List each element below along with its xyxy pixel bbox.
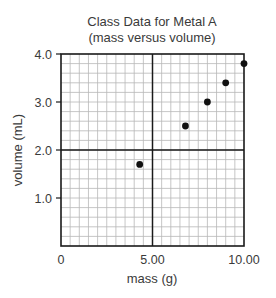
y-tick-label: 2.0 <box>35 144 52 158</box>
y-tick-label: 1.0 <box>35 192 52 206</box>
data-point <box>136 161 143 168</box>
x-axis-label: mass (g) <box>127 271 178 286</box>
y-axis-label: volume (mL) <box>10 114 25 186</box>
y-tick-label: 4.0 <box>35 48 52 62</box>
y-axis-ticks: 1.02.03.04.0 <box>35 48 61 206</box>
data-point <box>204 99 211 106</box>
x-tick-label: 10.00 <box>228 253 259 267</box>
y-tick-label: 3.0 <box>35 96 52 110</box>
data-point <box>241 60 248 67</box>
x-tick-label: 0 <box>58 253 65 267</box>
chart-subtitle: (mass versus volume) <box>88 30 215 45</box>
scatter-chart: Class Data for Metal A (mass versus volu… <box>0 0 276 298</box>
x-tick-label: 5.00 <box>140 253 164 267</box>
data-point <box>222 79 229 86</box>
chart-title: Class Data for Metal A <box>87 14 217 29</box>
data-point <box>182 123 189 130</box>
x-axis-ticks: 05.0010.00 <box>58 253 260 267</box>
